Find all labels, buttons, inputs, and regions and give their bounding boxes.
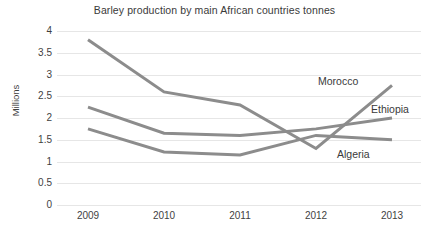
series-label-algeria: Algeria (337, 149, 370, 160)
y-tick-label: 3 (14, 70, 52, 80)
y-tick-label: 4 (14, 26, 52, 36)
y-tick-label: 0.5 (14, 178, 52, 188)
x-tick-label: 2012 (286, 211, 346, 221)
y-tick-label: 0 (14, 200, 52, 210)
x-tick-label: 2009 (58, 211, 118, 221)
y-tick-label: 1 (14, 157, 52, 167)
plot-area (57, 31, 421, 205)
line-chart: Barley production by main African countr… (0, 0, 429, 237)
y-tick-label: 3.5 (14, 48, 52, 58)
series-label-ethiopia: Ethiopia (371, 104, 409, 115)
series-label-morocco: Morocco (318, 76, 358, 87)
gridline (57, 205, 421, 206)
chart-title: Barley production by main African countr… (0, 4, 429, 16)
series-line-ethiopia (88, 107, 392, 135)
y-axis-tick-labels: 00.511.522.533.54 (14, 0, 52, 237)
x-tick-label: 2011 (210, 211, 270, 221)
y-tick-label: 1.5 (14, 135, 52, 145)
y-tick-label: 2.5 (14, 91, 52, 101)
y-tick-label: 2 (14, 113, 52, 123)
series-line-morocco (88, 40, 392, 149)
x-tick-label: 2010 (134, 211, 194, 221)
x-tick-label: 2013 (362, 211, 422, 221)
series-lines (57, 31, 421, 205)
